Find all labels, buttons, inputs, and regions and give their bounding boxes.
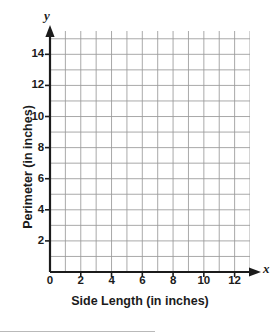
y-axis-title: Perimeter (in inches)	[21, 92, 35, 242]
grid-lines	[50, 31, 250, 272]
x-axis-title: Side Length (in inches)	[30, 294, 250, 308]
x-axis-arrowhead	[249, 267, 261, 276]
page-rule	[0, 331, 155, 332]
x-tick-label: 2	[68, 274, 94, 286]
coordinate-grid-figure: 024681012 2468101214 Side Length (in inc…	[0, 0, 280, 336]
plot-area	[50, 31, 250, 272]
x-tick-label: 12	[222, 274, 248, 286]
y-tick-label: 14	[18, 47, 44, 59]
x-axis-variable-letter: x	[263, 261, 270, 277]
y-tick-label: 12	[18, 78, 44, 90]
x-tick-label: 4	[99, 274, 125, 286]
x-tick-label: 10	[191, 274, 217, 286]
x-tick-label: 0	[37, 274, 63, 286]
x-tick-label: 8	[160, 274, 186, 286]
y-axis-variable-letter: y	[44, 8, 50, 24]
x-tick-label: 6	[129, 274, 155, 286]
